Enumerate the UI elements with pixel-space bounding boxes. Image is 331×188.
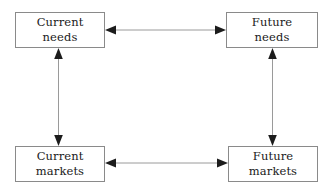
- node-future-needs-line-1: Future: [252, 15, 292, 30]
- node-current-markets-line-1: Current: [37, 149, 84, 164]
- node-future-markets[interactable]: Future markets: [228, 146, 318, 182]
- node-current-markets-line-2: markets: [36, 164, 84, 179]
- node-current-needs-line-2: needs: [43, 30, 78, 45]
- node-current-markets[interactable]: Current markets: [15, 146, 105, 182]
- connector-needs-horizontal-double-arrow-icon: [105, 22, 226, 38]
- node-future-markets-line-2: markets: [249, 164, 297, 179]
- diagram-canvas: Current needs Future needs Current marke…: [0, 0, 331, 188]
- connector-future-vertical-double-arrow-icon: [264, 48, 281, 146]
- node-current-needs-line-1: Current: [37, 15, 84, 30]
- node-future-needs-line-2: needs: [255, 30, 290, 45]
- node-future-markets-line-1: Future: [253, 149, 293, 164]
- connector-current-vertical-double-arrow-icon: [50, 48, 67, 146]
- node-current-needs[interactable]: Current needs: [15, 12, 105, 48]
- connector-markets-horizontal-double-arrow-icon: [105, 155, 228, 171]
- node-future-needs[interactable]: Future needs: [226, 12, 318, 48]
